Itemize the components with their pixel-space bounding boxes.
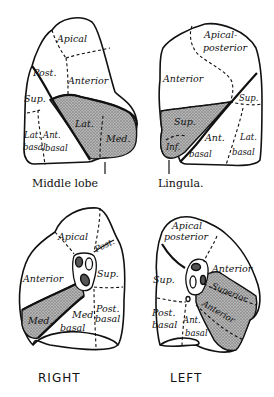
vein-icon (201, 276, 206, 285)
side-label-right: RIGHT (38, 371, 81, 385)
label-anterior: Anterior (211, 263, 254, 274)
label-superior: Sup. (24, 93, 46, 104)
artery-icon (192, 264, 201, 271)
label-anterior: Anterior (162, 73, 205, 84)
left-lung-lateral-view: Apical- posterior Anterior Sup. Sup. Inf… (158, 24, 262, 190)
label-anterior-basal-2: basal (189, 149, 212, 159)
label-anterior-basal-1: Ant. (182, 315, 201, 325)
label-anterior-basal-1: Ant. (204, 132, 225, 143)
bronchus-icon (76, 257, 83, 267)
right-lung-medial-view: Apical Post. Anterior Sup. Post. basal M… (20, 208, 125, 385)
label-lateral-basal-2: basal (23, 142, 46, 152)
label-medial-basal-2: basal (60, 322, 85, 333)
label-anterior-basal-2: basal (45, 143, 68, 153)
label-lateral-basal-1: Lat. (23, 130, 41, 140)
caption-lingula: Lingula. (158, 177, 204, 190)
label-middle-lateral: Lat. (74, 118, 94, 129)
label-middle-medial: Med. (105, 133, 130, 144)
side-label-left: LEFT (170, 371, 202, 385)
label-superior: Sup. (153, 274, 175, 285)
label-posterior-basal-1: Post. (151, 307, 175, 318)
label-anterior: Anterior (22, 273, 65, 284)
caption-middle-lobe: Middle lobe (32, 177, 98, 190)
label-medial-basal-1: Med. (71, 309, 96, 320)
small-vessel-icon (186, 297, 190, 302)
label-anterior-basal-2: basal (185, 328, 208, 338)
label-apical: Apical (57, 231, 88, 242)
label-lingula-superior: Sup. (174, 116, 196, 127)
label-posterior-basal-2: basal (95, 313, 120, 324)
label-apical-posterior-2: posterior (164, 231, 209, 242)
label-posterior-basal-2: basal (152, 319, 177, 330)
label-middle-medial: Med. (27, 315, 52, 326)
label-lingula-inferior: Inf. (165, 142, 180, 152)
label-anterior: Anterior (67, 75, 110, 86)
label-apical-posterior-1: Apical (171, 220, 202, 231)
right-lung-lateral-view: Apical Post. Anterior Sup. Lat. basal An… (23, 18, 137, 190)
label-superior: Sup. (97, 268, 119, 279)
label-apical: Apical (56, 33, 87, 44)
label-apical-posterior-2: posterior (203, 42, 248, 53)
label-anterior-basal-1: Ant. (42, 130, 61, 140)
label-posterior: Post. (32, 67, 56, 78)
left-lung-medial-view: Apical posterior Anterior Sup. Post. bas… (151, 217, 260, 385)
label-apical-posterior-1: Apical- (203, 29, 237, 40)
artery-icon (86, 258, 93, 270)
label-superior: Sup. (239, 93, 258, 103)
label-lateral-basal-2: basal (232, 147, 255, 157)
label-lateral-basal-1: Lat. (239, 132, 257, 142)
lung-segments-diagram: Apical Post. Anterior Sup. Lat. basal An… (0, 0, 274, 397)
bronchus-icon (190, 276, 196, 288)
